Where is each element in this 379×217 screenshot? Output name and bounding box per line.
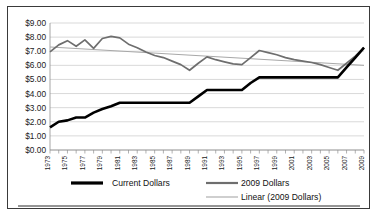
chart-frame: $0.0000$1.0000$2.0000$3.0000$4.0000$5.00…	[7, 6, 370, 209]
x-tick-label: 1979	[96, 156, 103, 171]
y-tick-label: $9.00	[25, 18, 46, 28]
legend-label: 2009 Dollars	[241, 178, 289, 188]
y-tick-label: $3.00	[25, 103, 46, 113]
x-axis-ticks	[50, 150, 364, 154]
x-tick-label: 1973	[44, 156, 51, 171]
x-tick-label: 2009	[358, 156, 365, 171]
x-tick-label: 2001	[288, 156, 295, 171]
x-tick-label: 1987	[166, 156, 173, 171]
y-tick-label: $8.00	[25, 32, 46, 42]
x-tick-label: 1997	[253, 156, 260, 171]
x-axis-tick-labels: 1973197519771979198119831985198719891991…	[44, 156, 365, 171]
x-tick-label: 1985	[149, 156, 156, 171]
y-axis-tick-labels: $0.0000$1.0000$2.0000$3.0000$4.0000$5.00…	[25, 18, 46, 155]
x-tick-label: 1989	[184, 156, 191, 171]
y-tick-label: $1.00	[25, 131, 46, 141]
chart-legend: Current Dollars2009 DollarsLinear (2009 …	[18, 178, 360, 206]
y-tick-label: $5.00	[25, 74, 46, 84]
x-tick-label: 2003	[306, 156, 313, 171]
x-tick-label: 1983	[131, 156, 138, 171]
axis-lines	[50, 23, 364, 150]
line-current-dollars	[50, 48, 364, 128]
y-tick-label: $6.00	[25, 60, 46, 70]
x-tick-label: 1995	[236, 156, 243, 171]
minimum-wage-line-chart: $0.0000$1.0000$2.0000$3.0000$4.0000$5.00…	[8, 7, 371, 210]
x-tick-label: 1999	[271, 156, 278, 171]
x-tick-label: 1991	[201, 156, 208, 171]
y-tick-label: $4.00	[25, 89, 46, 99]
chart-container: $0.0000$1.0000$2.0000$3.0000$4.0000$5.00…	[8, 7, 371, 210]
y-tick-label: $7.00	[25, 46, 46, 56]
x-tick-label: 2005	[323, 156, 330, 171]
y-tick-label: $2.00	[25, 117, 46, 127]
legend-label: Current Dollars	[112, 178, 170, 188]
x-tick-label: 1975	[61, 156, 68, 171]
gridlines	[50, 23, 364, 150]
y-tick-label: $0.00	[25, 145, 46, 155]
x-tick-label: 1977	[79, 156, 86, 171]
x-tick-label: 1993	[218, 156, 225, 171]
legend-label: Linear (2009 Dollars)	[241, 192, 321, 202]
x-tick-label: 2007	[341, 156, 348, 171]
x-tick-label: 1981	[114, 156, 121, 171]
series-current-dollars	[50, 48, 364, 128]
